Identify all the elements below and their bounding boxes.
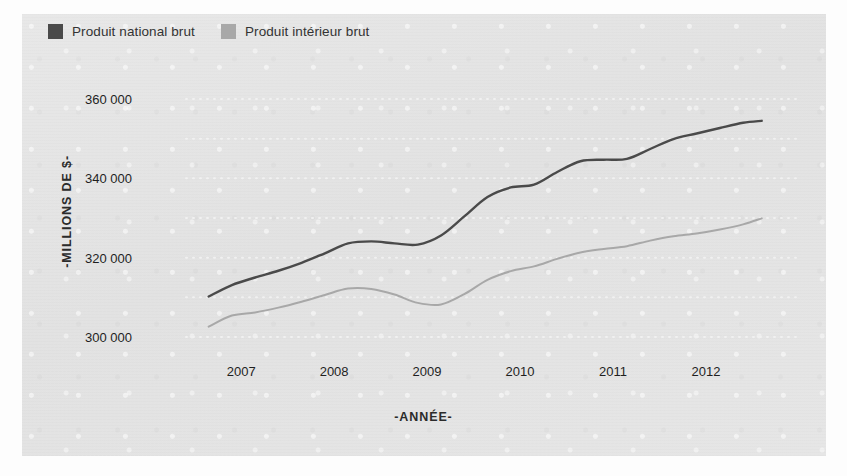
x-axis-tick-label: 2012 bbox=[691, 364, 720, 379]
series-line-pib bbox=[209, 218, 762, 326]
y-axis-tick-labels: 360 000340 000320 000300 000 bbox=[40, 0, 132, 476]
series-line-pnb bbox=[209, 121, 762, 297]
x-axis-tick-label: 2009 bbox=[413, 364, 442, 379]
x-axis-tick-label: 2010 bbox=[506, 364, 535, 379]
legend-label-pib: Produit intérieur brut bbox=[245, 24, 370, 39]
y-axis-tick-label: 340 000 bbox=[40, 171, 132, 186]
y-axis-tick-label: 320 000 bbox=[40, 250, 132, 265]
x-axis-tick-label: 2007 bbox=[227, 364, 256, 379]
y-axis-tick-label: 300 000 bbox=[40, 330, 132, 345]
x-axis-tick-label: 2008 bbox=[320, 364, 349, 379]
legend-item-pib[interactable]: Produit intérieur brut bbox=[221, 24, 370, 39]
x-axis-tick-label: 2011 bbox=[599, 364, 627, 379]
legend-swatch-pib bbox=[221, 24, 236, 39]
chart-screenshot: Produit national brut Produit intérieur … bbox=[0, 0, 847, 476]
y-axis-tick-label: 360 000 bbox=[40, 92, 132, 107]
